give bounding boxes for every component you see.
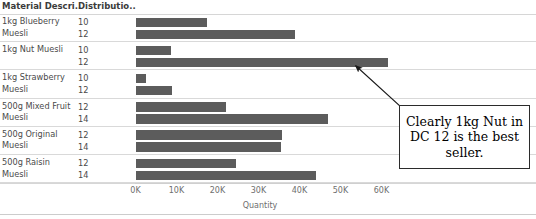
bar-mark[interactable]	[136, 46, 172, 56]
x-axis-tick-label: 50K	[333, 186, 348, 195]
x-axis-title: Quantity	[243, 201, 278, 210]
column-header-row: Material Descri.. Distributio..	[0, 0, 536, 15]
distribution-center-label: 12	[78, 130, 88, 140]
footer-divider	[0, 214, 536, 215]
bar-mark[interactable]	[136, 74, 147, 84]
chart-bar-row[interactable]: 12	[0, 84, 536, 96]
bar-mark[interactable]	[136, 159, 236, 169]
distribution-center-label: 12	[78, 29, 88, 39]
distribution-center-label: 10	[78, 73, 88, 83]
bar-mark[interactable]	[136, 102, 226, 112]
chart-bar-row[interactable]: 12	[0, 56, 536, 68]
distribution-center-label: 14	[78, 142, 88, 152]
column-header-material[interactable]: Material Descri..	[2, 1, 81, 11]
bar-mark[interactable]	[136, 171, 316, 181]
annotation-text: Clearly 1kg Nut in DC 12 is the best sel…	[400, 114, 529, 161]
x-axis-tick-label: 10K	[169, 186, 184, 195]
chart-bar-row[interactable]: 12	[0, 28, 536, 40]
chart-group-row[interactable]: 1kg Blueberry Muesli1012	[0, 14, 536, 42]
column-header-distribution-center[interactable]: Distributio..	[78, 1, 136, 11]
bar-mark[interactable]	[136, 130, 283, 140]
distribution-center-label: 14	[78, 114, 88, 124]
x-axis-tick-label: 30K	[251, 186, 266, 195]
bar-mark[interactable]	[136, 18, 208, 28]
chart-group-row[interactable]: 1kg Nut Muesli1012	[0, 42, 536, 70]
chart-bar-row[interactable]: 10	[0, 16, 536, 28]
distribution-center-label: 12	[78, 57, 88, 67]
x-axis-tick-label: 0K	[130, 186, 140, 195]
chart-group-row[interactable]: 1kg Strawberry Muesli1012	[0, 70, 536, 98]
distribution-center-label: 12	[78, 102, 88, 112]
chart-bar-row[interactable]: 10	[0, 44, 536, 56]
x-axis-tick-label: 40K	[292, 186, 307, 195]
bar-mark[interactable]	[136, 142, 282, 152]
x-axis-line	[135, 183, 387, 184]
distribution-center-label: 12	[78, 158, 88, 168]
chart-bar-row[interactable]: 14	[0, 169, 536, 181]
distribution-center-label: 14	[78, 170, 88, 180]
x-axis-tick-label: 20K	[210, 186, 225, 195]
distribution-center-label: 10	[78, 45, 88, 55]
bar-mark[interactable]	[136, 86, 173, 96]
distribution-center-label: 10	[78, 17, 88, 27]
distribution-center-label: 12	[78, 85, 88, 95]
x-axis-tick-label: 60K	[374, 186, 389, 195]
bar-mark[interactable]	[136, 30, 296, 40]
bar-mark[interactable]	[136, 114, 329, 124]
annotation-callout[interactable]: Clearly 1kg Nut in DC 12 is the best sel…	[399, 105, 530, 169]
bar-chart-viz: Material Descri.. Distributio.. 1kg Blue…	[0, 0, 536, 219]
chart-bar-row[interactable]: 10	[0, 72, 536, 84]
bar-mark[interactable]	[136, 58, 388, 68]
